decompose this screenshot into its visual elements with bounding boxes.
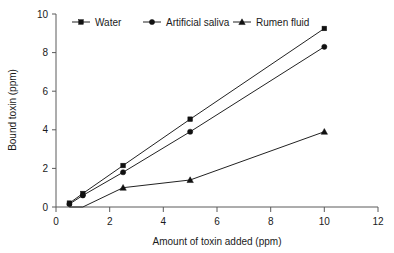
series-group xyxy=(67,26,328,207)
circle-marker-icon xyxy=(149,19,154,24)
y-tick-label-8: 8 xyxy=(42,47,48,58)
data-point xyxy=(188,117,193,122)
x-tick-label-10: 10 xyxy=(319,216,331,227)
data-point xyxy=(67,202,72,207)
data-point xyxy=(322,44,327,49)
x-tick-label-8: 8 xyxy=(268,216,274,227)
y-tick-label-0: 0 xyxy=(42,202,48,213)
y-axis-title: Bound toxin (ppm) xyxy=(7,69,18,151)
series-rumen-fluid xyxy=(69,129,327,207)
chart-legend: WaterArtificial salivaRumen fluid xyxy=(72,17,309,28)
x-tick-label-4: 4 xyxy=(161,216,167,227)
legend-label: Rumen fluid xyxy=(256,17,309,28)
legend-item-artificial-saliva[interactable]: Artificial saliva xyxy=(143,17,230,28)
square-marker-icon xyxy=(79,20,84,25)
series-line xyxy=(69,132,324,207)
chart-figure: 0 2 4 6 8 10 0 2 4 6 8 10 12 Amount of t… xyxy=(0,0,394,253)
legend-item-water[interactable]: Water xyxy=(72,17,122,28)
y-tick-label-2: 2 xyxy=(42,163,48,174)
x-axis-ticks xyxy=(56,207,378,212)
series-line xyxy=(69,47,324,204)
y-tick-label-10: 10 xyxy=(37,9,49,20)
data-point xyxy=(321,129,327,135)
data-point xyxy=(121,163,126,168)
legend-label: Artificial saliva xyxy=(166,17,230,28)
line-chart: 0 2 4 6 8 10 0 2 4 6 8 10 12 Amount of t… xyxy=(0,0,394,253)
data-point xyxy=(80,193,85,198)
data-point xyxy=(120,170,125,175)
y-tick-label-4: 4 xyxy=(42,124,48,135)
y-tick-label-6: 6 xyxy=(42,86,48,97)
x-tick-label-0: 0 xyxy=(53,216,59,227)
x-tick-label-12: 12 xyxy=(372,216,384,227)
data-point xyxy=(322,26,327,31)
series-line xyxy=(69,28,324,203)
legend-item-rumen-fluid[interactable]: Rumen fluid xyxy=(233,17,309,28)
series-water xyxy=(67,26,327,205)
legend-label: Water xyxy=(95,17,122,28)
series-artificial-saliva xyxy=(67,44,327,206)
x-axis-title: Amount of toxin added (ppm) xyxy=(153,236,282,247)
x-tick-label-6: 6 xyxy=(214,216,220,227)
data-point xyxy=(188,129,193,134)
x-tick-label-2: 2 xyxy=(107,216,113,227)
y-axis-ticks xyxy=(52,14,56,207)
